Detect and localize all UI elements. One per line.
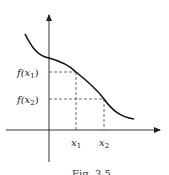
figure-caption: Fig. 3.5 [72,168,111,175]
function-curve [25,34,134,119]
label-x2: x2 [99,137,109,150]
label-fx1: f(x1) [16,67,39,80]
function-graph: f(x1) f(x2) x1 x2 Fig. 3.5 [0,0,169,175]
label-x1: x1 [71,137,81,150]
dashed-guides [49,72,104,130]
label-fx2: f(x2) [16,94,39,107]
